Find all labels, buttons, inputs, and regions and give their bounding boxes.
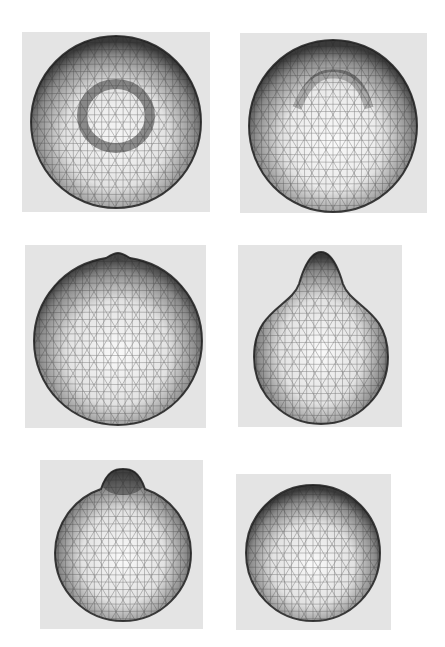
mesh-panel-4 (238, 245, 402, 427)
mesh-sphere-5 (40, 460, 203, 629)
mesh-sphere-1 (22, 32, 210, 212)
mesh-panel-2 (240, 33, 427, 213)
mesh-sphere-4 (238, 245, 402, 427)
mesh-panel-1 (22, 32, 210, 212)
mesh-sphere-3 (25, 245, 206, 428)
mesh-panel-5 (40, 460, 203, 629)
mesh-panel-6 (236, 474, 391, 630)
mesh-panel-3 (25, 245, 206, 428)
mesh-sphere-2 (240, 33, 427, 213)
mesh-sphere-6 (236, 474, 391, 630)
